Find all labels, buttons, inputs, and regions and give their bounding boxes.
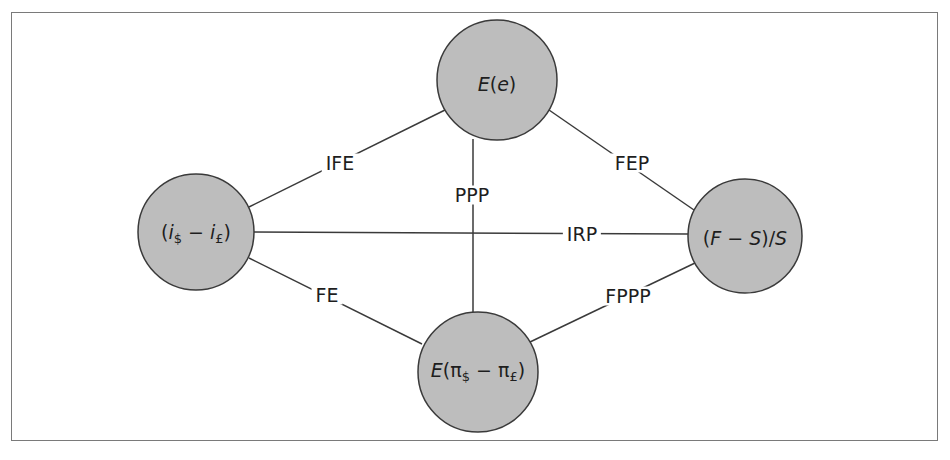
node-label-interest-differential: (i$ − i£) bbox=[161, 223, 231, 245]
edge-label-irp: IRP bbox=[563, 225, 601, 244]
edge-label-fppp: FPPP bbox=[601, 287, 654, 306]
node-label-expected-exchange-rate: E(e) bbox=[478, 75, 517, 94]
node-label-expected-inflation-differential: E(π$ − π£) bbox=[431, 361, 525, 383]
diagram-graphics bbox=[0, 0, 950, 460]
edge-label-fe: FE bbox=[312, 286, 343, 305]
node-label-forward-premium: (F − S)/S bbox=[703, 229, 787, 248]
edge-lines bbox=[249, 110, 695, 344]
edge-label-ppp: PPP bbox=[451, 186, 493, 205]
edge-label-fep: FEP bbox=[611, 154, 653, 173]
edge-line-irp bbox=[254, 232, 688, 234]
parity-conditions-diagram: IFE FEP IRP PPP FE FPPP E(e) (i$ − i£) (… bbox=[0, 0, 950, 460]
edge-label-ife: IFE bbox=[322, 154, 359, 173]
